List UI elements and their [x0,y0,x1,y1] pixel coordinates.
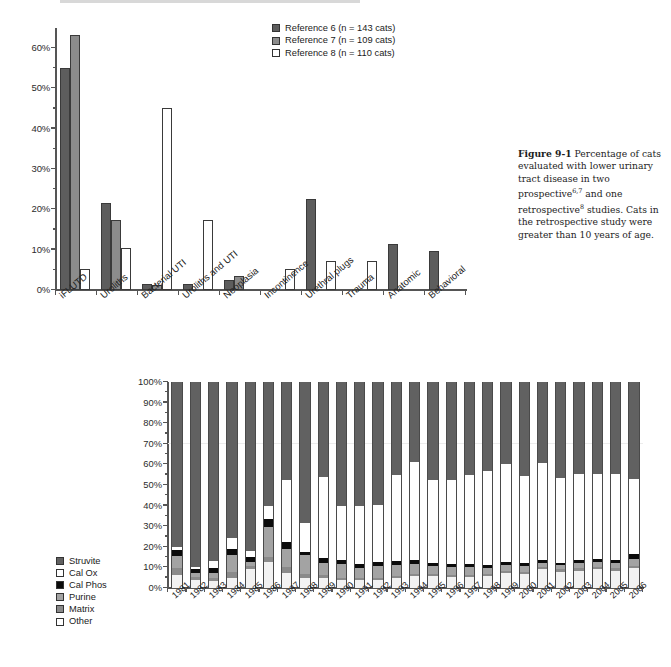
bottom-chart-segment [191,577,200,580]
bottom-chart-segment [629,559,638,566]
top-chart-x-tick [342,290,343,295]
bottom-chart-x-tick [258,588,259,592]
bottom-chart-y-tick [165,412,169,413]
bottom-chart-y-tick [163,484,168,485]
legend-swatch-icon [272,49,280,57]
bottom-chart-segment [483,382,492,471]
top-chart-bar-group [179,28,220,290]
bottom-chart-segment [465,567,474,574]
top-chart-x-tick [424,290,425,295]
bottom-chart-y-tick [165,432,169,433]
bottom-chart-y-tick [165,453,169,454]
bottom-chart-segment [191,382,200,567]
bottom-chart-segment [538,567,547,569]
bottom-chart-segment [629,554,638,559]
bottom-chart-y-tick [165,556,169,557]
bottom-chart-y-tick [165,515,169,516]
bottom-chart-segment [447,480,456,564]
bottom-chart-segment [282,549,291,568]
bottom-chart-x-tick [350,588,351,592]
bottom-chart-segment [611,568,620,570]
bottom-chart-segment [574,382,583,474]
bottom-chart-segment [246,557,255,562]
bottom-chart-segment [556,382,565,478]
bottom-chart-segment [428,574,437,576]
bottom-chart-segment [410,462,419,560]
bottom-chart-y-tick [165,535,169,536]
bottom-chart-segment [392,475,401,562]
bottom-chart-segment [319,382,328,477]
bottom-chart-segment [373,382,382,505]
bottom-chart-stack [427,382,438,588]
top-chart-y-label: 50% [20,82,50,93]
bottom-chart-x-tick [240,588,241,592]
bottom-chart-segment [300,552,309,555]
bottom-chart-y-tick [163,546,168,547]
top-chart-x-tick [219,290,220,295]
top-chart-legend: Reference 6 (n = 143 cats)Reference 7 (n… [272,22,395,59]
top-chart-bar [70,35,80,290]
figure-number: Figure 9-1 [518,148,572,159]
bottom-chart-segment [611,474,620,561]
bottom-chart-stack [171,382,182,588]
bottom-chart-segment [611,382,620,474]
bottom-chart-segment [246,562,255,566]
bottom-chart-stack [190,382,201,588]
bottom-chart-segment [392,576,401,578]
bottom-chart-plot-area [168,382,643,588]
bottom-chart-legend-label: Other [69,615,92,627]
top-chart-y-label: 40% [20,123,50,134]
legend-swatch-icon [56,605,64,613]
bottom-chart-segment [574,474,583,561]
bottom-chart-segment [501,571,510,573]
bottom-chart-segment [172,556,181,568]
bottom-chart-stack [482,382,493,588]
bottom-chart-segment [538,563,547,567]
top-chart-x-tick [465,290,466,295]
bottom-chart-segment [337,506,346,561]
legend-swatch-icon [272,24,280,32]
bottom-chart-segment [410,382,419,462]
bottom-chart-x-tick [222,588,223,592]
top-chart-y-label: 30% [20,163,50,174]
bottom-chart-x-tick [459,588,460,592]
bottom-chart-stack [573,382,584,588]
bottom-chart-x-tick [331,588,332,592]
bottom-chart-segment [483,568,492,573]
bottom-chart-segment [465,382,474,475]
bottom-chart-stack [446,382,457,588]
caption-ref-1: 6,7 [572,187,582,195]
top-chart-legend-item: Reference 8 (n = 110 cats) [272,47,395,59]
bottom-chart-x-tick [642,588,643,592]
bottom-chart-segment [264,519,273,527]
top-chart-legend-item: Reference 6 (n = 143 cats) [272,22,395,34]
bottom-chart-y-tick [163,566,168,567]
bottom-chart-segment [264,382,273,506]
bottom-chart-segment [465,564,474,567]
bottom-chart-legend-item: Other [56,615,107,627]
figure-caption: Figure 9-1 Percentage of cats evaluated … [518,148,666,241]
bottom-chart-segment [593,559,602,562]
bottom-chart-y-tick [165,391,169,392]
bottom-chart-segment [520,572,529,574]
bottom-chart-x-tick [185,588,186,592]
legend-swatch-icon [56,557,64,565]
bottom-chart-segment [337,578,346,580]
bottom-chart-stack [208,382,219,588]
bottom-chart-stack [519,382,530,588]
bottom-chart-legend-label: Purine [69,591,96,603]
bottom-chart-segment [227,538,236,549]
bottom-chart-segment [264,506,273,519]
bottom-chart-segment [246,382,255,551]
bottom-chart-y-label: 70% [124,438,162,449]
legend-swatch-icon [272,37,280,45]
bottom-chart-segment [556,569,565,571]
bottom-chart-stack [336,382,347,588]
bottom-chart-segment [483,565,492,568]
bottom-chart-x-tick [386,588,387,592]
top-chart-bar-group [261,28,302,290]
top-chart-bar-group [302,28,343,290]
bottom-chart-y-tick [165,473,169,474]
top-chart-x-tick [383,290,384,295]
bottom-chart-y-label: 100% [124,376,162,387]
